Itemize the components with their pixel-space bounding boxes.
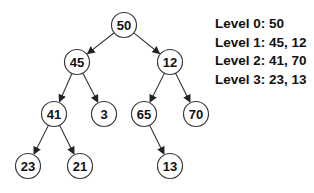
- node-value: 50: [117, 18, 131, 33]
- edge-arrow-65-to-13: [150, 125, 164, 154]
- edge-arrow-50-to-45: [88, 33, 115, 54]
- node-value: 41: [47, 107, 61, 122]
- tree-node-23: 23: [16, 154, 41, 179]
- edge-arrow-50-to-12: [134, 33, 160, 54]
- legend-level-0: Level 0: 50: [215, 15, 307, 34]
- edge-arrow-45-to-41: [59, 73, 71, 101]
- tree-node-13: 13: [158, 154, 183, 179]
- edge-arrow-41-to-21: [60, 125, 74, 154]
- tree-nodes: 5045124136570232113: [16, 13, 209, 179]
- node-value: 12: [163, 55, 177, 70]
- tree-node-45: 45: [65, 50, 90, 75]
- level-order-legend: Level 0: 50 Level 1: 45, 12 Level 2: 41,…: [215, 15, 307, 89]
- node-value: 13: [163, 159, 177, 174]
- node-value: 21: [73, 159, 87, 174]
- tree-node-65: 65: [132, 102, 157, 127]
- edge-arrow-45-to-3: [83, 73, 98, 102]
- tree-node-21: 21: [68, 154, 93, 179]
- edge-arrow-12-to-65: [150, 73, 164, 102]
- tree-node-3: 3: [92, 102, 117, 127]
- legend-level-1: Level 1: 45, 12: [215, 34, 307, 53]
- node-value: 3: [100, 107, 107, 122]
- tree-node-50: 50: [112, 13, 137, 38]
- legend-level-3: Level 3: 23, 13: [215, 71, 307, 90]
- edge-arrow-12-to-70: [176, 73, 190, 102]
- node-value: 70: [189, 107, 203, 122]
- node-value: 45: [70, 55, 84, 70]
- node-value: 23: [21, 159, 35, 174]
- tree-node-70: 70: [184, 102, 209, 127]
- tree-node-41: 41: [42, 102, 67, 127]
- node-value: 65: [137, 107, 151, 122]
- edge-arrow-41-to-23: [34, 125, 48, 154]
- legend-level-2: Level 2: 41, 70: [215, 52, 307, 71]
- tree-node-12: 12: [158, 50, 183, 75]
